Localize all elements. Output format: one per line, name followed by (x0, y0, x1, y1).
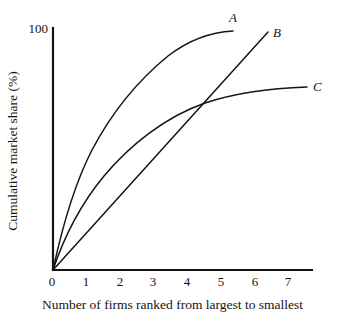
concentration-curve-figure: 100 0 1 2 3 4 5 6 7 A B C Number of firm… (0, 0, 345, 326)
x-axis-tick-3: 3 (143, 275, 163, 288)
x-axis-tick-2: 2 (110, 275, 130, 288)
series-label-b: B (273, 26, 281, 39)
x-axis-tick-5: 5 (211, 275, 231, 288)
x-axis-tick-0: 0 (42, 275, 62, 288)
series-label-a: A (229, 11, 237, 24)
x-axis-tick-4: 4 (177, 275, 197, 288)
x-axis-tick-7: 7 (278, 275, 298, 288)
x-axis-tick-6: 6 (245, 275, 265, 288)
y-axis-title-wrapper: Cumulative market share (%) (2, 40, 24, 260)
series-curve-a (53, 31, 233, 270)
x-axis-tick-1: 1 (76, 275, 96, 288)
series-label-c: C (313, 80, 322, 93)
series-curve-c (53, 87, 307, 270)
y-axis-tick-100: 100 (12, 22, 48, 35)
y-axis-title: Cumulative market share (%) (5, 41, 21, 261)
series-curve-b (53, 32, 268, 270)
x-axis-title: Number of firms ranked from largest to s… (0, 297, 345, 313)
